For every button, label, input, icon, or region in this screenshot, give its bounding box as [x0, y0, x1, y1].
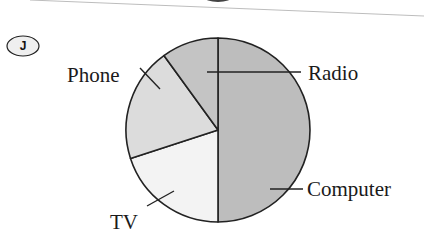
question-marker-letter: J	[20, 39, 27, 53]
cut-off-shape	[204, 0, 232, 2]
page-edge-line	[30, 0, 424, 16]
pie	[126, 38, 310, 222]
pie-slice-computer	[218, 38, 310, 222]
label-radio: Radio	[308, 61, 358, 85]
label-tv: TV	[110, 210, 138, 234]
pie-chart-figure: J Radio Phone TV Computer	[0, 0, 424, 236]
label-computer: Computer	[307, 177, 391, 201]
label-phone: Phone	[67, 63, 120, 87]
question-marker-badge: J	[7, 36, 39, 56]
